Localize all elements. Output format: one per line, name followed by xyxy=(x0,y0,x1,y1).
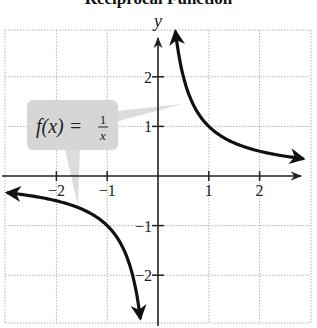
y-axis-label: y xyxy=(152,11,162,31)
y-tick-label: 1 xyxy=(144,118,152,135)
x-tick-label: −1 xyxy=(99,182,116,199)
y-tick-label: 2 xyxy=(144,69,152,86)
x-tick-label: 1 xyxy=(205,182,213,199)
curve-right-branch xyxy=(176,32,303,158)
y-tick-label: −2 xyxy=(135,267,152,284)
x-tick-label: 2 xyxy=(256,182,264,199)
callout-denominator: x xyxy=(99,128,106,143)
callout-numerator: 1 xyxy=(100,112,107,127)
reciprocal-function-chart: Reciprocal Function f(x) = 1x −2−112−2−1… xyxy=(0,0,317,328)
y-tick-label: −1 xyxy=(135,218,152,235)
x-tick-label: −2 xyxy=(48,182,65,199)
chart-title: Reciprocal Function xyxy=(0,0,317,9)
callout-equation: f(x) = xyxy=(36,115,82,138)
curve-left-branch xyxy=(8,193,140,318)
plot-area: f(x) = 1x −2−112−2−112y xyxy=(0,0,317,328)
